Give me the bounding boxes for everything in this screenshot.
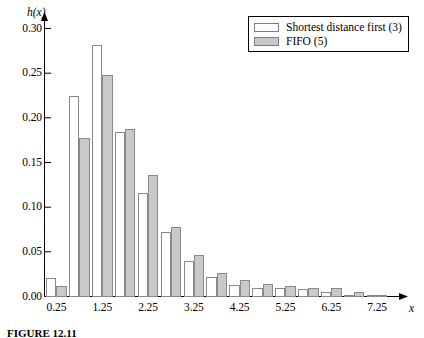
x-tick-label: 3.25 (174, 302, 214, 314)
x-tick-label: 0.25 (36, 302, 76, 314)
x-tick-label: 5.25 (265, 302, 305, 314)
legend-swatch-icon (254, 37, 279, 46)
chart-legend: Shortest distance first (3) FIFO (5) (248, 16, 409, 52)
x-tick-label: 7.25 (357, 302, 397, 314)
x-tick-label: 2.25 (128, 302, 168, 314)
legend-label: FIFO (5) (286, 35, 327, 47)
x-axis-title: x (409, 302, 414, 314)
chart-plot-area: h(x) 0.30 0.25 0.20 0.15 0.10 0.05 0.00 … (0, 0, 424, 338)
figure-container: h(x) 0.30 0.25 0.20 0.15 0.10 0.05 0.00 … (0, 0, 424, 338)
legend-label: Shortest distance first (3) (286, 21, 402, 33)
legend-swatch-icon (254, 23, 279, 32)
x-tick-label: 6.25 (311, 302, 351, 314)
legend-entry-0[interactable]: Shortest distance first (3) (254, 20, 402, 34)
figure-caption: FIGURE 12.11 (7, 327, 77, 338)
legend-entry-1[interactable]: FIFO (5) (254, 34, 402, 48)
x-tick-label: 1.25 (82, 302, 122, 314)
x-tick-label: 4.25 (220, 302, 260, 314)
